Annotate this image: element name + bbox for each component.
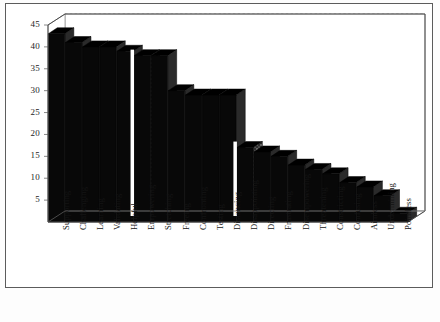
chart-figure: 45403530252015105 SupportingChallengingL…: [0, 0, 440, 322]
y-tick-label: 45: [18, 19, 40, 29]
y-tick-label: 35: [18, 63, 40, 73]
y-tick-label: 40: [18, 41, 40, 51]
y-tick-label: 5: [18, 194, 40, 204]
y-tick-label: 20: [18, 128, 40, 138]
y-tick-label: 30: [18, 85, 40, 95]
y-tick-label: 25: [18, 107, 40, 117]
y-tick-label: 10: [18, 172, 40, 182]
bar-chart-plot: [0, 0, 440, 322]
y-tick-label: 15: [18, 150, 40, 160]
